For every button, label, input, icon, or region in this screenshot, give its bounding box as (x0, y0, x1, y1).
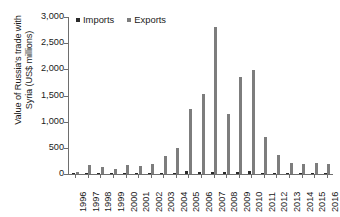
bar-exports (227, 114, 230, 174)
bar-exports (202, 94, 205, 174)
y-axis-tick-label: 3,000 (41, 12, 64, 21)
bar-exports (76, 172, 79, 174)
x-axis-tick-mark (239, 175, 240, 178)
y-axis-tick-mark (64, 43, 68, 44)
x-axis-tick-label: 2015 (318, 178, 327, 212)
bar-group (70, 17, 80, 174)
x-axis-tick-mark (113, 175, 114, 178)
x-axis-tick-mark (201, 175, 202, 178)
x-axis-tick-label: 2016 (331, 178, 340, 212)
x-axis-tick-label: 2006 (205, 178, 214, 212)
x-axis-tick-mark (88, 175, 89, 178)
x-axis-tick-mark (264, 175, 265, 178)
bar-group (121, 17, 131, 174)
x-axis-tick-label: 1997 (92, 178, 101, 212)
x-axis-tick-mark (327, 175, 328, 178)
bar-group (309, 17, 319, 174)
legend-entry-imports: Imports (76, 15, 114, 25)
y-axis-tick-label: 2,500 (41, 39, 64, 48)
bar-group (158, 17, 168, 174)
bar-exports (327, 164, 330, 174)
x-axis-tick-mark (163, 175, 164, 178)
x-axis-tick-label: 2012 (280, 178, 289, 212)
x-axis-tick-label: 2003 (167, 178, 176, 212)
y-axis-title-line-1: Value of Russia's trade with (13, 15, 24, 125)
x-axis-tick-mark (289, 175, 290, 178)
bar-group (183, 17, 193, 174)
legend-label: Imports (83, 15, 114, 25)
x-axis-tick-mark (276, 175, 277, 178)
bar-group (284, 17, 294, 174)
legend-label: Exports (134, 15, 166, 25)
bar-exports (101, 167, 104, 174)
x-axis-tick-label: 1998 (104, 178, 113, 212)
x-axis-tick-label: 2004 (180, 178, 189, 212)
bar-group (209, 17, 219, 174)
bar-exports (176, 148, 179, 174)
x-axis-tick-mark (75, 175, 76, 178)
bar-group (221, 17, 231, 174)
bar-group (259, 17, 269, 174)
bar-exports (114, 169, 117, 174)
x-axis-tick-mark (314, 175, 315, 178)
y-axis-tick-label: 500 (49, 143, 64, 152)
bar-exports (189, 109, 192, 174)
x-axis-tick-mark (251, 175, 252, 178)
y-axis-tick-label: 1,500 (41, 91, 64, 100)
bar-exports (139, 166, 142, 174)
x-axis-tick-mark (176, 175, 177, 178)
bar-exports (277, 155, 280, 174)
y-axis-tick-label: 2,000 (41, 65, 64, 74)
x-axis-tick-mark (100, 175, 101, 178)
chart-legend: ImportsExports (76, 15, 166, 25)
x-axis-tick-mark (138, 175, 139, 178)
x-axis-tick-mark (151, 175, 152, 178)
y-axis-tick-mark (64, 69, 68, 70)
x-axis-tick-label: 2014 (306, 178, 315, 212)
x-axis-tick-mark (226, 175, 227, 178)
bar-exports (302, 164, 305, 174)
bar-exports (252, 70, 255, 174)
plot-area (69, 17, 333, 174)
x-axis-tick-label: 2005 (192, 178, 201, 212)
bar-exports (151, 164, 154, 174)
bar-group (322, 17, 332, 174)
x-axis-tick-mark (188, 175, 189, 178)
y-axis-tick-mark (64, 17, 68, 18)
bar-exports (88, 165, 91, 174)
bar-exports (126, 165, 129, 174)
x-axis-tick-label: 2000 (130, 178, 139, 212)
bar-group (108, 17, 118, 174)
bar-group (246, 17, 256, 174)
bar-exports (239, 77, 242, 174)
bar-exports (315, 163, 318, 174)
bar-exports (290, 163, 293, 175)
x-axis-tick-label: 1996 (79, 178, 88, 212)
x-axis-tick-mark (126, 175, 127, 178)
bar-group (196, 17, 206, 174)
bar-group (83, 17, 93, 174)
y-axis-tick-mark (64, 96, 68, 97)
x-axis-tick-label: 2001 (142, 178, 151, 212)
square-marker-icon (127, 18, 131, 22)
x-axis-tick-label: 2002 (155, 178, 164, 212)
bar-exports (264, 137, 267, 174)
bar-group (271, 17, 281, 174)
legend-entry-exports: Exports (127, 15, 166, 25)
x-axis-tick-label: 2007 (218, 178, 227, 212)
bar-group (133, 17, 143, 174)
bar-group (171, 17, 181, 174)
x-axis-tick-label: 2008 (230, 178, 239, 212)
x-axis-tick-label: 2010 (255, 178, 264, 212)
x-axis-tick-labels: 1996199719981999200020012002200320042005… (69, 178, 333, 217)
bar-group (95, 17, 105, 174)
y-axis-tick-mark (64, 174, 68, 175)
bar-exports (164, 156, 167, 174)
y-axis-tick-mark (64, 148, 68, 149)
bar-group (297, 17, 307, 174)
bar-group (234, 17, 244, 174)
y-axis-tick-labels: 05001,0001,5002,0002,5003,000 (28, 0, 64, 217)
x-axis-tick-label: 2009 (243, 178, 252, 212)
y-axis-tick-label: 1,000 (41, 117, 64, 126)
